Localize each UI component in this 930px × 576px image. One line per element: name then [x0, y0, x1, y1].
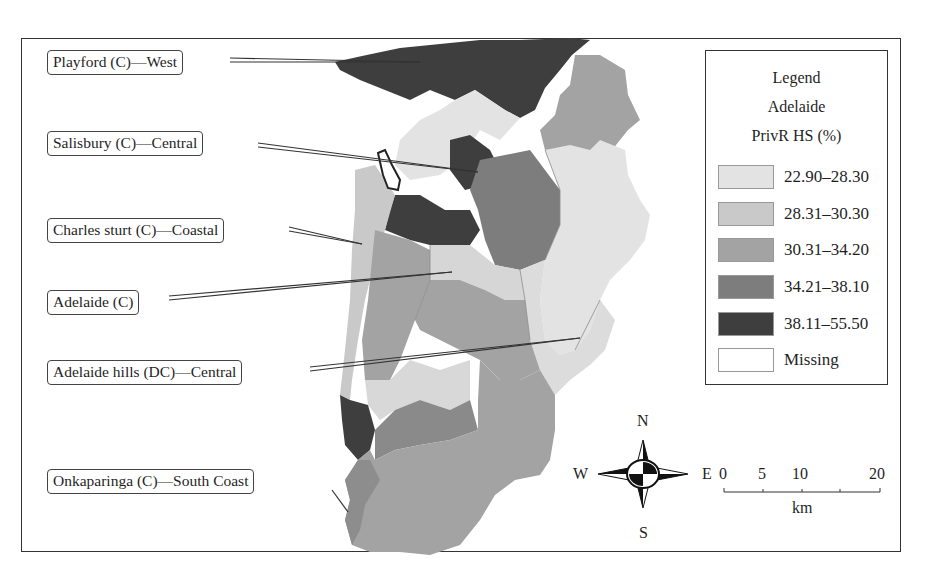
callout-salisbury: Salisbury (C)—Central [47, 131, 203, 156]
callout-onkaparinga: Onkaparinga (C)—South Coast [47, 469, 254, 494]
scale-tick-0: 0 [719, 465, 727, 483]
compass-north-label: N [637, 412, 649, 430]
legend-swatch [718, 165, 774, 189]
legend-label: 22.90–28.30 [784, 167, 869, 187]
compass-south-label: S [639, 524, 648, 542]
legend-subtitle: Adelaide [706, 92, 887, 121]
legend-label: 28.31–30.30 [784, 204, 869, 224]
compass-rose-icon [598, 440, 688, 508]
legend-label: 30.31–34.20 [784, 240, 869, 260]
legend-label: 34.21–38.10 [784, 277, 869, 297]
legend-item: 34.21–38.10 [718, 274, 869, 300]
scale-tick-20: 20 [869, 465, 885, 483]
legend-swatch [718, 202, 774, 226]
legend-swatch [718, 348, 774, 372]
legend-item: 38.11–55.50 [718, 311, 868, 337]
legend-swatch [718, 238, 774, 262]
legend-item: Missing [718, 347, 839, 373]
callout-adelaide: Adelaide (C) [47, 290, 139, 315]
legend-item: 30.31–34.20 [718, 237, 869, 263]
legend-label: Missing [784, 350, 839, 370]
legend: Legend Adelaide PrivR HS (%) 22.90–28.30… [705, 50, 888, 385]
legend-label: 38.11–55.50 [784, 314, 868, 334]
callout-charles-sturt: Charles sturt (C)—Coastal [47, 218, 224, 243]
legend-swatch [718, 312, 774, 336]
scale-tick-10: 10 [792, 465, 808, 483]
legend-title: Legend [706, 63, 887, 92]
scale-unit: km [792, 499, 812, 517]
scale-bar [724, 488, 880, 492]
scale-tick-5: 5 [758, 465, 766, 483]
callout-playford: Playford (C)—West [47, 50, 183, 75]
compass-west-label: W [573, 465, 588, 483]
legend-variable: PrivR HS (%) [706, 121, 887, 150]
callout-adelaide-hills: Adelaide hills (DC)—Central [47, 360, 242, 385]
compass-east-label: E [702, 465, 712, 483]
legend-item: 28.31–30.30 [718, 201, 869, 227]
legend-item: 22.90–28.30 [718, 164, 869, 190]
legend-swatch [718, 275, 774, 299]
